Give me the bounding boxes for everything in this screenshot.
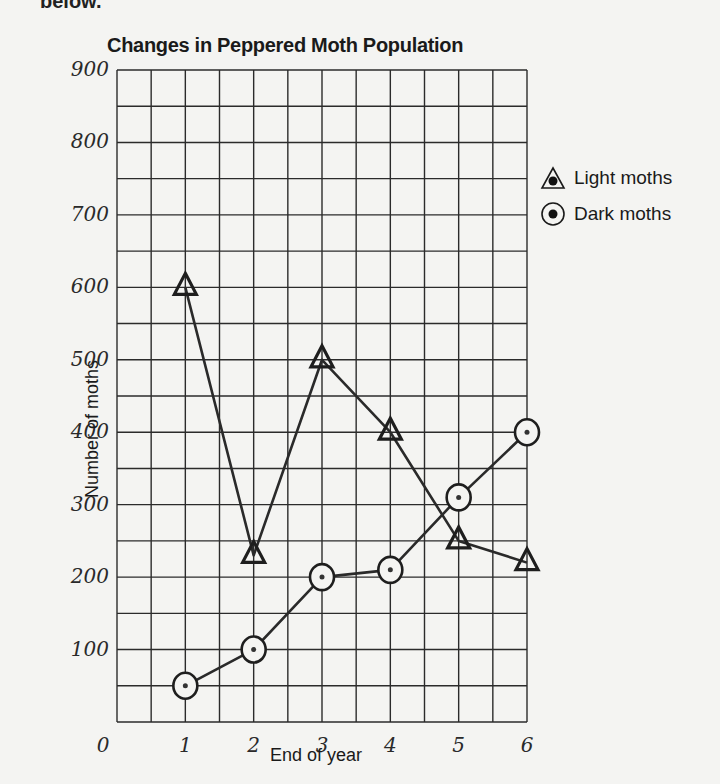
legend-label: Light moths — [574, 167, 672, 189]
x-tick-label: 4 — [383, 733, 397, 757]
y-tick-label: 100 — [71, 637, 109, 661]
x-tick-label: 0 — [97, 733, 110, 757]
legend-item-light-moths: Light moths — [540, 160, 672, 196]
chart-plot-area: 100200300400500600700800900 0123456 — [0, 0, 720, 784]
y-axis-label: Number of moths — [82, 360, 103, 498]
y-tick-labels: 100200300400500600700800900 — [70, 57, 109, 661]
x-tick-label: 1 — [179, 733, 192, 757]
x-tick-label: 2 — [246, 733, 260, 757]
legend: Light moths Dark moths — [540, 160, 672, 232]
legend-item-dark-moths: Dark moths — [540, 196, 672, 232]
legend-label: Dark moths — [574, 203, 671, 225]
grid — [117, 70, 527, 722]
x-tick-label: 5 — [452, 733, 465, 757]
y-tick-label: 900 — [71, 57, 109, 81]
y-tick-label: 700 — [71, 202, 109, 226]
triangle-dot-icon — [540, 166, 566, 190]
y-tick-label: 600 — [71, 274, 109, 298]
circle-dot-icon — [540, 201, 566, 227]
y-tick-label: 200 — [70, 564, 109, 588]
x-axis-label: End of year — [270, 745, 362, 766]
y-tick-label: 800 — [71, 129, 109, 153]
x-tick-label: 6 — [521, 733, 534, 757]
